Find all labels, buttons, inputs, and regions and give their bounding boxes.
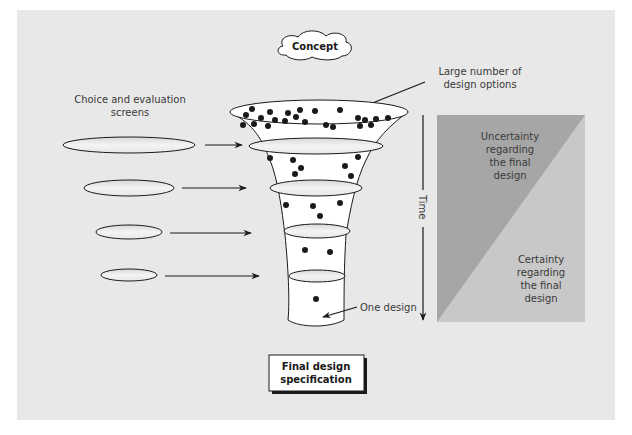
svg-text:Uncertainty: Uncertainty <box>481 131 540 142</box>
final-design-box: Final design specification <box>269 355 367 394</box>
svg-text:regarding: regarding <box>486 144 534 155</box>
svg-text:One design: One design <box>360 302 417 313</box>
screen-ellipse-1 <box>249 138 383 154</box>
top-annotation-line1: Large number of <box>438 66 522 77</box>
svg-text:the final: the final <box>520 280 561 291</box>
svg-text:specification: specification <box>280 374 352 385</box>
top-annotation-line2: design options <box>443 79 516 90</box>
screen-ellipse-2 <box>270 180 362 196</box>
svg-text:Final design: Final design <box>282 361 351 372</box>
svg-text:design: design <box>524 293 557 304</box>
screen-ellipse-4 <box>289 270 345 282</box>
funnel-diagram: Concept Large number of design options C… <box>0 0 632 435</box>
screen-ellipse-3 <box>284 224 350 238</box>
concept-label: Concept <box>292 41 338 52</box>
svg-text:the final: the final <box>489 157 530 168</box>
time-label: Time <box>417 194 428 219</box>
svg-text:screens: screens <box>111 107 149 118</box>
svg-text:Choice and evaluation: Choice and evaluation <box>74 94 186 105</box>
svg-text:design: design <box>493 170 526 181</box>
certainty-panel: Uncertainty regarding the final design C… <box>437 115 585 322</box>
svg-text:Certainty: Certainty <box>518 254 564 265</box>
concept-cloud: Concept <box>278 31 351 60</box>
svg-text:regarding: regarding <box>517 267 565 278</box>
